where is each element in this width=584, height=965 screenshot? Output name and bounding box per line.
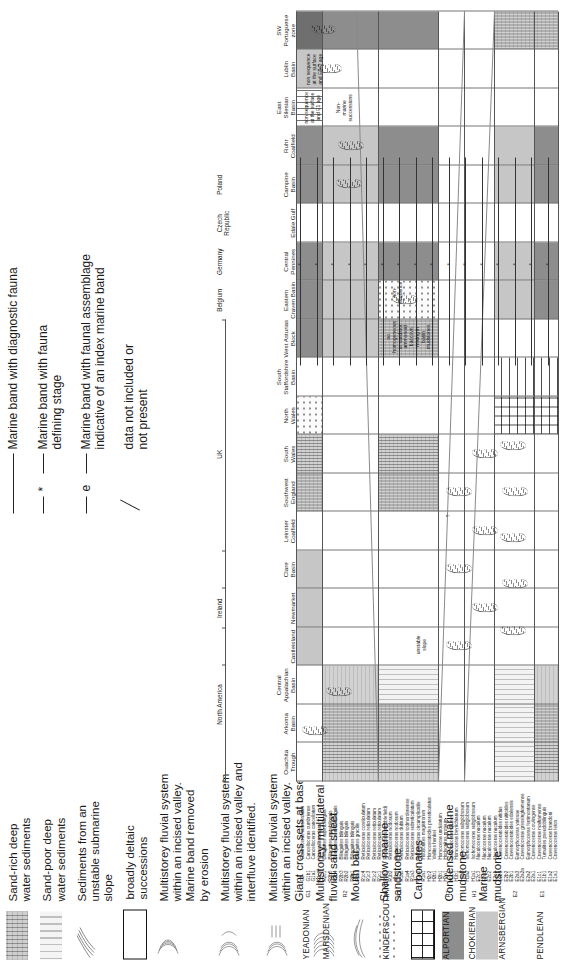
chart-annotation: non sequence at the surface and E2c2 age [306, 50, 323, 89]
fauna-star-marker: * [545, 263, 551, 265]
legend-symbol-item: * Marine band with fauna defining stage [36, 213, 65, 513]
marine-band-code: R1a3 [410, 870, 415, 881]
column-divider [296, 549, 558, 550]
fluvial-lens-icon [500, 533, 526, 542]
fauna-star-marker: * [429, 263, 435, 265]
marine-band-name: Cravenoceras cowlingense [531, 804, 536, 859]
chart-cell [534, 589, 558, 628]
country-label: Poland [216, 165, 223, 204]
chart-cell [494, 666, 534, 705]
chart-cell [296, 396, 322, 435]
column-divider [296, 665, 558, 666]
stage-divider [296, 11, 297, 781]
marine-band-name: Tumulites pseudobilinguis [542, 806, 547, 859]
chart-cell [534, 396, 558, 435]
marine-band-code: E2b2 [504, 870, 509, 881]
fluvial-lens-icon [326, 687, 352, 696]
column-header: North Wales [282, 396, 296, 435]
marine-band-line [498, 157, 499, 365]
chart-cell [464, 11, 494, 50]
marine-band-name: Eumorphoceras yatesae [515, 809, 520, 859]
column-header: Lublin Basin [282, 50, 296, 89]
stage-code-r2: R2 [342, 890, 348, 897]
marine-band-name: Cravenoceras gressinghamense [520, 793, 525, 859]
chart-cell [438, 165, 464, 204]
fluvial-lens-icon [446, 641, 472, 650]
marine-band-name: Cravenoceras brandoni [548, 811, 553, 859]
chart-cell [464, 204, 494, 243]
chart-annotation: non sequence at the surface and E1 age [304, 88, 321, 127]
chart-cell [378, 589, 438, 628]
chart-annotation: no homogeneous or sandstor ammonoid bacc… [386, 317, 432, 356]
marine-band-code: E2c1 [493, 871, 498, 881]
chart-cell [378, 743, 438, 782]
column-header: West Asturias Block [282, 319, 296, 358]
column-header: Edale Gulf [289, 204, 296, 243]
country-label: Belgium [216, 281, 223, 320]
marine-band-name: Isohomoceras subglobosum [460, 802, 465, 859]
marine-band-code: E2a2 [526, 870, 531, 881]
column-divider [296, 164, 558, 165]
stage-code-e2: E2 [512, 890, 518, 897]
column-divider [296, 241, 558, 242]
marine-band-name: Reticuloceras coreticulatum [361, 803, 366, 859]
marine-band-code: R2a1 [355, 870, 360, 881]
chart-cell [494, 512, 534, 551]
marine-band-code: E2b1 [509, 870, 514, 881]
chart-cell [534, 165, 558, 204]
stage-divider [438, 11, 439, 781]
marine-band-code: H1a2 [465, 870, 470, 881]
fluvial-lens-icon [472, 526, 498, 535]
chart-cell [464, 165, 494, 204]
fauna-star-marker: * [297, 263, 303, 265]
incised-valley-2-swatch [218, 911, 240, 959]
column-divider [296, 280, 558, 281]
chart-cell [438, 242, 464, 281]
fauna-star-marker: * [363, 263, 369, 265]
marine-band-name: Bilinguites superbilinguis [322, 809, 327, 859]
chart-annotation: Non- marine successions [336, 88, 353, 127]
marine-band-line [515, 157, 516, 365]
marine-band-code: H1a1 [471, 870, 476, 881]
fauna-star-marker: * [512, 263, 518, 265]
legend-symbol-label: Marine band with fauna defining stage [36, 324, 65, 449]
column-header: South Staffordshire Basin [275, 358, 296, 397]
column-header: Castleisland [289, 627, 296, 666]
column-divider [296, 10, 558, 11]
marine-band-code: H2b1 [438, 870, 443, 881]
marine-band-code: E2a3 [515, 870, 520, 881]
column-group-label: UK [216, 319, 223, 589]
fauna-star-marker: * [528, 263, 534, 265]
chart-cell [494, 435, 534, 474]
marine-band-code: H2c2 [427, 870, 432, 881]
legend-symbol-item: Marine band with diagnostic fauna [6, 213, 22, 513]
marine-band-name: Homoceras undulatum [438, 813, 443, 859]
chart-cell [322, 704, 378, 743]
fauna-star-marker: * [479, 263, 485, 265]
chart-cell [438, 435, 464, 474]
chart-cell [438, 50, 464, 89]
marine-band-name: Hodsonites proteum [443, 818, 448, 859]
marine-band-name: Nuculoceras nuculum [476, 815, 481, 859]
deltaic-swatch [123, 909, 147, 959]
country-label: Czech Republic [216, 204, 230, 243]
chart-cell [534, 204, 558, 243]
marine-band-code: H1a3 [460, 870, 465, 881]
legend-label: Sand-poor deep water sediments [40, 817, 67, 901]
fluvial-lens-icon [446, 487, 472, 496]
chart-cell [534, 627, 558, 666]
marine-band-name: Reticuloceras reticulatum [377, 807, 382, 859]
marine-band-line [465, 157, 466, 365]
marine-band-name: Cancelloceras cumbriense [306, 805, 311, 859]
marine-band-code: E2c2 [487, 871, 492, 881]
stage-label-chokierian: CHOKIERIAN [468, 906, 477, 959]
marine-band-line [350, 157, 351, 365]
chart-cell [378, 165, 438, 204]
column-divider [296, 357, 558, 358]
incised-valley-3-swatch [266, 911, 288, 959]
stage-label-yeadonian: YEADONIAN [302, 909, 311, 959]
fluvial-lens-icon [472, 603, 498, 612]
slump-glyph-icon [75, 911, 97, 959]
marine-band-line [300, 157, 301, 365]
chart-cell [438, 11, 464, 50]
